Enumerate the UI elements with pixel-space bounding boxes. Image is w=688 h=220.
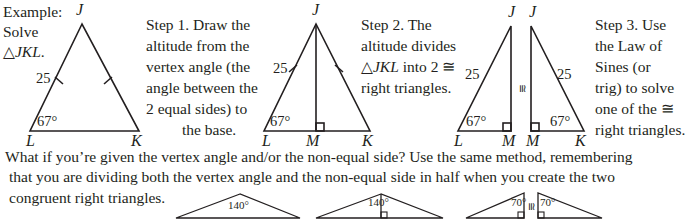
bottom-paragraph-line: that you are dividing both the vertex an…: [9, 167, 615, 187]
angle-label: 67°: [466, 113, 486, 130]
side-length-label: 25: [557, 66, 572, 83]
right-angle-marker: [503, 123, 511, 131]
congruent-symbol: ≅: [516, 84, 529, 93]
vertex-label-j: J: [312, 1, 319, 19]
vertex-label-j: J: [529, 3, 536, 21]
tick-mark-right: [104, 77, 112, 84]
vertex-label-j: J: [508, 3, 515, 21]
bottom-paragraph-line: What if you’re given the vertex angle an…: [5, 147, 633, 167]
angle-label: 140°: [228, 199, 249, 211]
geometry-figures: [0, 0, 688, 220]
right-angle-marker: [316, 123, 324, 131]
side-length-label: 25: [465, 66, 480, 83]
right-angle-marker: [531, 123, 539, 131]
angle-label: 140°: [368, 196, 389, 208]
bottom-paragraph-line: congruent right triangles.: [9, 188, 165, 208]
side-length-label: 25: [273, 60, 288, 77]
side-length-label: 25: [36, 70, 51, 87]
angle-label: 67°: [550, 113, 570, 130]
tick-mark-left: [55, 77, 63, 84]
congruent-symbol: ≅: [525, 202, 538, 211]
angle-label: 67°: [37, 113, 57, 130]
vertex-label-j: J: [76, 1, 83, 19]
angle-label: 70°: [540, 196, 555, 208]
angle-label: 67°: [270, 113, 290, 130]
